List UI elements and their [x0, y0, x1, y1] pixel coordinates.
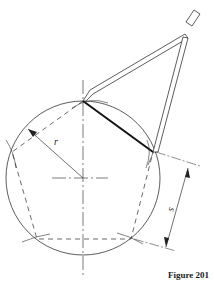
- side-label: s: [164, 206, 176, 213]
- pentagon-dashed-sides: [12, 101, 153, 239]
- extension-line-top: [156, 152, 200, 166]
- dimension-arrow-top: [185, 168, 190, 178]
- dimension-arrow-bottom: [164, 237, 169, 247]
- pentagon-construction-diagram: r s: [0, 0, 214, 284]
- compass-icon: [83, 10, 200, 152]
- radius-label: r: [54, 136, 58, 147]
- extension-line-bottom: [134, 239, 176, 251]
- pentagon-side-bold: [83, 101, 153, 152]
- figure-caption: Figure 201: [168, 270, 209, 280]
